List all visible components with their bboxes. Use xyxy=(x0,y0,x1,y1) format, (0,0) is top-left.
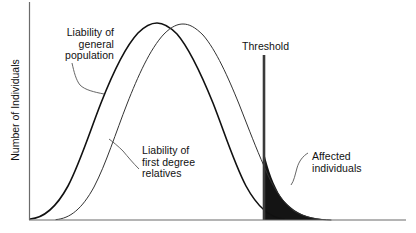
liability-threshold-chart: Number of Individuals Liability of gener… xyxy=(0,0,416,233)
first-degree-relatives-annotation: Liability of first degree relatives xyxy=(142,145,222,180)
y-axis-label: Number of Individuals xyxy=(9,45,21,175)
general-population-annotation: Liability of general population xyxy=(40,27,114,62)
affected-individuals-annotation: Affected individuals xyxy=(312,151,390,174)
threshold-annotation: Threshold xyxy=(242,41,312,53)
